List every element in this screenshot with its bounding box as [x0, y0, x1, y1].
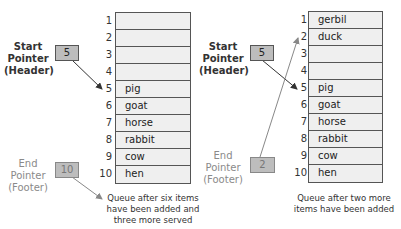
caption-line: three more served — [100, 215, 206, 226]
caption-line: have been added and — [100, 204, 206, 215]
queue-cell: goat — [309, 97, 382, 114]
end-pointer-box: 2 — [250, 157, 275, 173]
index: 6 — [98, 97, 112, 114]
label-line: Pointer — [4, 170, 52, 182]
queue-cell: cow — [309, 148, 382, 165]
caption-line: Queue after six items — [100, 193, 206, 204]
queue-cell — [116, 64, 190, 81]
queue-cell: rabbit — [116, 132, 190, 149]
label-line: Pointer — [199, 53, 247, 65]
index: 5 — [98, 80, 112, 97]
queue-cell: duck — [309, 29, 382, 46]
queue-cell: hen — [116, 166, 190, 183]
index: 8 — [293, 130, 307, 147]
start-pointer-box: 5 — [250, 45, 274, 61]
queue-cell: horse — [309, 114, 382, 131]
queue-cell — [116, 30, 190, 47]
label-line: End — [199, 150, 247, 162]
label-line: (Footer) — [4, 182, 52, 194]
start-pointer-label: Start Pointer (Header) — [4, 41, 52, 77]
queue-cell: pig — [309, 80, 382, 97]
label-line: (Header) — [199, 65, 247, 77]
queue-cell: horse — [116, 115, 190, 132]
index: 7 — [293, 113, 307, 130]
index: 4 — [293, 62, 307, 79]
start-arrow-right — [262, 60, 297, 89]
queue-cell — [116, 47, 190, 64]
end-pointer-label: End Pointer (Footer) — [4, 158, 52, 194]
queue-table: gerbil duck pig goat horse rabbit cow he… — [308, 11, 383, 183]
caption: Queue after six items have been added an… — [100, 193, 206, 226]
start-pointer-label: Start Pointer (Header) — [199, 41, 247, 77]
queue-cell — [309, 63, 382, 80]
queue-cell: hen — [309, 165, 382, 182]
label-line: End — [4, 158, 52, 170]
end-pointer-label: End Pointer (Footer) — [199, 150, 247, 186]
label-line: Start — [4, 41, 52, 53]
queue-cell: cow — [116, 149, 190, 166]
queue-cell: rabbit — [309, 131, 382, 148]
label-line: Pointer — [4, 53, 52, 65]
index: 10 — [98, 165, 112, 182]
label-line: Start — [199, 41, 247, 53]
index: 1 — [293, 11, 307, 28]
index: 2 — [293, 28, 307, 45]
label-line: (Footer) — [199, 174, 247, 186]
caption-line: Queue after two more — [292, 193, 396, 204]
index: 8 — [98, 131, 112, 148]
queue-cell: goat — [116, 98, 190, 115]
queue-table: pig goat horse rabbit cow hen — [115, 12, 191, 184]
caption-line: items have been added — [292, 204, 396, 215]
index: 9 — [293, 147, 307, 164]
end-pointer-box: 10 — [55, 162, 79, 178]
index: 5 — [293, 79, 307, 96]
index: 7 — [98, 114, 112, 131]
label-line: (Header) — [4, 65, 52, 77]
index: 3 — [293, 45, 307, 62]
index: 1 — [98, 12, 112, 29]
index: 10 — [293, 164, 307, 181]
index: 3 — [98, 46, 112, 63]
index: 9 — [98, 148, 112, 165]
queue-cell — [309, 46, 382, 63]
index: 4 — [98, 63, 112, 80]
start-pointer-box: 5 — [55, 45, 79, 61]
caption: Queue after two more items have been add… — [292, 193, 396, 215]
label-line: Pointer — [199, 162, 247, 174]
index: 6 — [293, 96, 307, 113]
index: 2 — [98, 29, 112, 46]
queue-cell: pig — [116, 81, 190, 98]
queue-cell: gerbil — [309, 12, 382, 29]
queue-cell — [116, 13, 190, 30]
